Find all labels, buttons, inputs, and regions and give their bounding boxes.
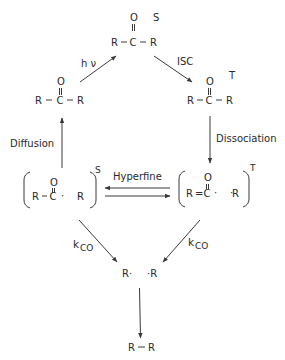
bond-symbol: = [195,188,203,199]
right-bracket [243,171,249,207]
carbon-atom: C [204,188,211,199]
excitation-label: h ν [81,58,97,69]
r-group-right: R [226,95,233,106]
r-group-left: R [187,95,194,106]
singlet-ketone: O R C R S [111,12,159,48]
ground-ketone: O R C R [35,76,84,106]
r-group-right: R [150,37,157,48]
oxygen-atom: O [130,12,138,23]
radical-dots: · · [214,187,233,198]
radical-left: R· [122,268,132,279]
triplet-ketone: O R C R T [187,70,236,106]
reaction-diagram: O R C R S O R C R O R C R T h ν [0,0,285,360]
oxygen-atom: O [206,76,214,87]
kco-label-sub: CO [80,243,93,253]
recombination-arrow [140,288,141,338]
diffusion-arrow: Diffusion [10,118,62,168]
r-group-left: R [186,188,193,199]
oxygen-atom: O [57,76,65,87]
diffusion-label: Diffusion [10,138,54,149]
triplet-state-label: T [228,70,236,81]
r-group-right: R [77,191,84,202]
kco-label-main: k [73,238,80,250]
dissociation-arrow: Dissociation [210,116,277,163]
r-group-right: R [232,188,239,199]
left-bracket [179,171,185,207]
carbon-atom: C [50,191,57,202]
carbon-atom: C [57,95,64,106]
r-group-left: R [128,342,135,353]
r-group-right: R [77,95,84,106]
singlet-state-label: S [95,165,101,175]
decarbonylation-left-arrow: k CO [73,220,117,262]
triplet-state-label: T [249,163,256,173]
oxygen-atom: O [50,177,58,188]
carbon-atom: C [130,37,137,48]
decarbonylation-right-arrow: k CO [163,220,208,262]
product-molecule: R R [128,342,155,353]
isc-arrow: ISC [154,56,193,82]
singlet-radical-pair: O R C · · R S [24,165,101,208]
r-group-right: R [148,342,155,353]
triplet-radical-pair: O R = C · · R T [179,163,256,207]
r-group-left: R [35,95,42,106]
r-group-left: R [32,191,39,202]
oxygen-atom: O [204,172,212,183]
hyperfine-label: Hyperfine [113,171,162,182]
radical-right: ·R [147,268,157,279]
dissociation-label: Dissociation [216,133,277,144]
r-group-left: R [111,37,118,48]
singlet-state-label: S [153,12,159,23]
hyperfine-equilibrium: Hyperfine [105,171,170,196]
alkyl-radicals: R· ·R [122,268,157,279]
right-bracket [90,172,96,208]
carbon-atom: C [206,95,213,106]
kco-label-main: k [188,236,195,248]
isc-label: ISC [177,56,193,67]
left-bracket [24,172,30,208]
excitation-arrow: h ν [80,56,116,82]
kco-label-sub: CO [195,241,208,251]
